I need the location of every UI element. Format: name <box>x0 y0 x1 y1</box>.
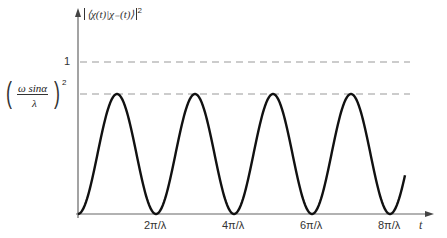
amplitude-numerator: ω sinα <box>17 82 48 95</box>
x-axis-arrow <box>425 211 434 217</box>
y-axis-label-exp: 2 <box>137 6 141 15</box>
amplitude-denominator: λ <box>32 97 37 109</box>
y-axis-label-text: ⟨χ(t)|χ₋(t)⟩ <box>84 8 137 20</box>
probability-curve <box>78 94 405 214</box>
y-tick-one: 1 <box>64 55 70 67</box>
y-axis-label: ⟨χ(t)|χ₋(t)⟩2 <box>84 6 142 21</box>
plot-area <box>0 0 447 238</box>
amplitude-exp: 2 <box>62 78 66 87</box>
paren-left: ( <box>6 76 12 110</box>
y-axis-arrow <box>75 8 81 17</box>
x-tick-4pi: 4π/λ <box>222 219 244 231</box>
x-tick-8pi: 8π/λ <box>378 219 400 231</box>
paren-right: ) <box>54 76 60 110</box>
x-tick-2pi: 2π/λ <box>144 219 166 231</box>
y-tick-amplitude: ( ω sinα λ ) 2 <box>4 80 70 110</box>
x-axis-label: t <box>419 218 422 233</box>
x-tick-6pi: 6π/λ <box>300 219 322 231</box>
